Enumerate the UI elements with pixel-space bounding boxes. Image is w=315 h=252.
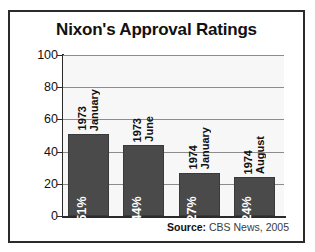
source-text: CBS News, 2005 xyxy=(209,221,289,233)
bar-category-line: 1973 xyxy=(77,106,88,130)
chart-figure: Nixon's Approval Ratings 020406080100 51… xyxy=(8,10,305,243)
bar-category-line: 1974 xyxy=(243,150,254,174)
bar[interactable]: 24% xyxy=(234,177,275,216)
bar[interactable]: 27% xyxy=(179,173,220,216)
bar-category-label: January1973 xyxy=(68,69,109,131)
bar-category-label: August1974 xyxy=(234,112,275,174)
bar-category-line: August xyxy=(255,136,266,174)
bar-value-label: 51% xyxy=(75,196,89,221)
plot-area: 51%January197344%June197327%January19742… xyxy=(63,55,284,216)
bar-category-line: January xyxy=(89,89,100,131)
bar-category-label: June1973 xyxy=(123,80,164,142)
bar-group[interactable]: 27%January1974 xyxy=(179,55,220,216)
y-axis-tick-labels: 020406080100 xyxy=(10,12,58,241)
y-tick-label: 60 xyxy=(12,112,58,126)
bar-group[interactable]: 24%August1974 xyxy=(234,55,275,216)
y-tick-label: 100 xyxy=(12,48,58,62)
bar-category-line: June xyxy=(144,116,155,142)
bar-category-line: 1974 xyxy=(188,145,199,169)
y-tick-label: 80 xyxy=(12,80,58,94)
bar-group[interactable]: 51%January1973 xyxy=(68,55,109,216)
bar-value-label: 44% xyxy=(130,196,144,221)
y-tick-label: 0 xyxy=(12,209,58,223)
bar[interactable]: 44% xyxy=(123,145,164,216)
y-tick-mark xyxy=(57,216,63,217)
bar-category-line: January xyxy=(200,127,211,169)
bar-value-label: 24% xyxy=(240,196,254,221)
bar-category-line: 1973 xyxy=(132,118,143,142)
bar-value-label: 27% xyxy=(185,196,199,221)
y-tick-label: 40 xyxy=(12,145,58,159)
source-note: Source: CBS News, 2005 xyxy=(167,221,289,233)
bar-category-label: January1974 xyxy=(179,108,220,170)
bar[interactable]: 51% xyxy=(68,134,109,216)
bar-group[interactable]: 44%June1973 xyxy=(123,55,164,216)
y-tick-label: 20 xyxy=(12,177,58,191)
source-label: Source: xyxy=(167,221,206,233)
